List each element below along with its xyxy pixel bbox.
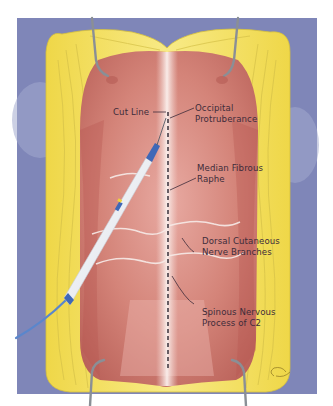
exposed-muscle-field	[80, 51, 258, 387]
label-occipital-protuberance: Occipital Protruberance	[195, 103, 257, 124]
label-median-fibrous-raphe: Median Fibrous Raphe	[197, 163, 263, 184]
surgical-illustration: Cut Line Occipital Protruberance Median …	[0, 0, 333, 406]
label-spinous-process-c2: Spinous Nervous Process of C2	[202, 307, 276, 328]
label-cut-line: Cut Line	[113, 107, 149, 118]
label-dorsal-cutaneous-nerve-branches: Dorsal Cutaneous Nerve Branches	[202, 236, 280, 257]
